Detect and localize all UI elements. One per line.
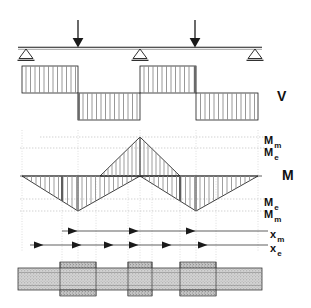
shear-diagram-label: V: [277, 89, 286, 103]
load-arrow-2: [190, 20, 201, 48]
dimension-lines-group: [30, 228, 268, 249]
shear-block-4: [196, 93, 258, 120]
rebar-bottom-2: [128, 290, 152, 296]
support-mid: [132, 49, 149, 60]
moment-diagram: [20, 137, 268, 211]
shear-block-3: [140, 66, 196, 93]
beam-group: [18, 20, 264, 60]
xm-dimension-line: [62, 228, 268, 235]
rebar-bottom-1: [60, 290, 96, 296]
load-arrow-1: [73, 20, 84, 48]
rebar-bottom-3: [180, 290, 216, 296]
moment-lobe-negative-right: [140, 176, 258, 211]
support-left: [18, 49, 35, 60]
support-right: [247, 49, 264, 60]
engineering-figure: V Mm Me M Me Mm xm xe: [0, 0, 311, 308]
shear-block-2: [78, 93, 140, 120]
moment-label-Me-top: Me: [264, 143, 279, 162]
moment-diagram-label: M: [282, 168, 294, 182]
slab-body: [18, 268, 262, 290]
moment-lobe-negative-left: [22, 176, 140, 211]
shear-diagram: [22, 66, 258, 120]
beam-slab-group: [18, 262, 262, 296]
moment-lobe-positive-center: [100, 137, 180, 176]
shear-block-1: [22, 66, 78, 93]
xe-dimension-line: [30, 242, 268, 249]
moment-label-Mm-bottom: Mm: [264, 205, 281, 224]
dimension-label-xe: xe: [270, 239, 282, 258]
